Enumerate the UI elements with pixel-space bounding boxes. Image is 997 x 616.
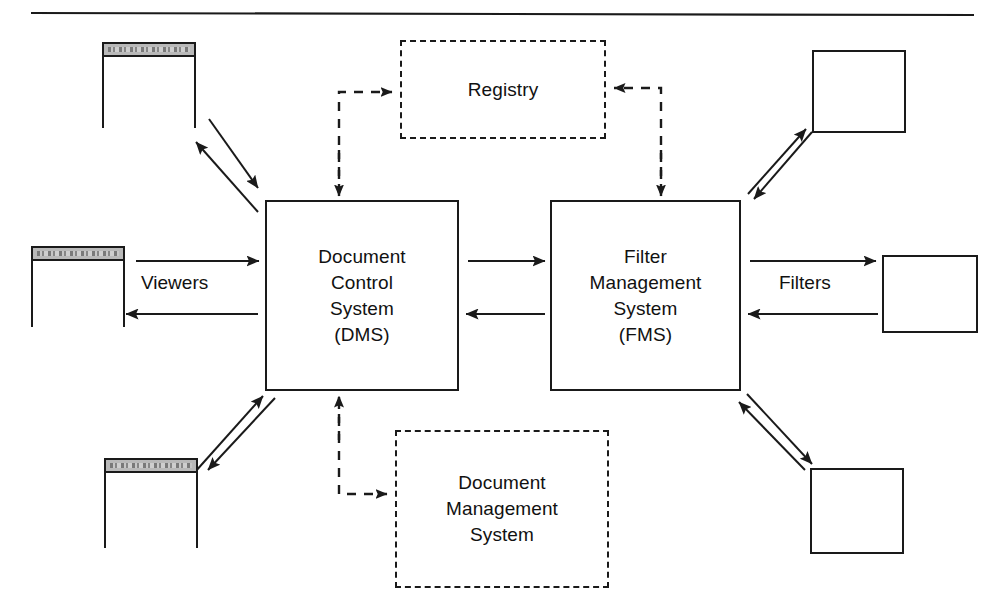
viewer-window-top-left[interactable]	[102, 42, 196, 128]
filter-box-top-right[interactable]	[812, 50, 906, 133]
arrow-bottomright-filter-to-fms	[739, 402, 805, 470]
node-filter-management-system[interactable]: Filter Management System (FMS)	[550, 200, 741, 391]
viewer-window-bottom-left[interactable]	[104, 458, 198, 548]
arrow-topright-filter-to-fms	[754, 132, 812, 199]
dashed-dms-to-document-management	[339, 400, 387, 494]
dashed-dms-to-registry	[339, 92, 392, 196]
node-registry[interactable]: Registry	[400, 40, 606, 139]
node-document-management-system-label: Document Management System	[446, 470, 558, 548]
node-registry-label: Registry	[468, 77, 538, 103]
edge-label-viewers: Viewers	[141, 272, 208, 294]
arrow-dms-to-bottomleft-viewer	[208, 398, 275, 470]
dashed-fms-to-registry	[614, 88, 661, 196]
arrow-dms-to-topleft-viewer	[196, 142, 258, 212]
arrow-fms-to-topright-filter	[748, 129, 806, 194]
filter-box-middle-right[interactable]	[882, 255, 978, 333]
window-titlebar-icon	[33, 248, 123, 261]
arrow-fms-to-bottomright-filter	[747, 394, 812, 464]
window-body	[33, 261, 123, 338]
node-document-control-system[interactable]: Document Control System (DMS)	[265, 200, 459, 391]
window-titlebar-icon	[104, 44, 194, 57]
edge-label-filters: Filters	[779, 272, 831, 294]
window-titlebar-icon	[106, 460, 196, 473]
window-body	[104, 57, 194, 139]
arrow-topleft-viewer-to-dms	[209, 119, 258, 188]
node-document-control-system-label: Document Control System (DMS)	[318, 244, 405, 348]
window-body	[106, 473, 196, 559]
arrow-bottomleft-viewer-to-dms	[195, 396, 263, 472]
diagram-canvas: Document Control System (DMS) Filter Man…	[0, 0, 997, 616]
viewer-window-middle-left[interactable]	[31, 246, 125, 327]
filter-box-bottom-right[interactable]	[810, 468, 904, 554]
top-rule	[31, 13, 974, 15]
node-document-management-system[interactable]: Document Management System	[395, 430, 609, 588]
node-filter-management-system-label: Filter Management System (FMS)	[590, 244, 702, 348]
